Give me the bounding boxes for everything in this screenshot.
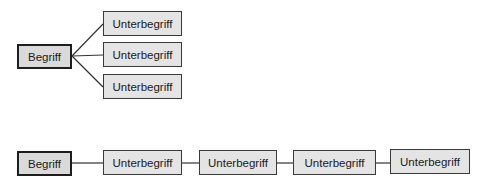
subconcept-label: Unterbegriff — [400, 156, 460, 168]
chain-subconcept-box: Unterbegriff — [103, 150, 182, 175]
subconcept-label: Unterbegriff — [113, 49, 173, 61]
subconcept-label: Unterbegriff — [113, 18, 173, 30]
subconcept-label: Unterbegriff — [113, 157, 173, 169]
root-concept-label: Begriff — [28, 51, 61, 63]
chain-subconcept-box: Unterbegriff — [293, 150, 376, 175]
subconcept-label: Unterbegriff — [305, 157, 365, 169]
root-concept-label: Begriff — [28, 158, 61, 170]
root-concept-box: Begriff — [17, 151, 72, 176]
subconcept-label: Unterbegriff — [208, 157, 268, 169]
chain-subconcept-box: Unterbegriff — [199, 150, 277, 175]
chain-subconcept-box: Unterbegriff — [390, 149, 470, 174]
root-concept-box: Begriff — [17, 44, 72, 69]
subconcept-box: Unterbegriff — [103, 11, 182, 36]
subconcept-label: Unterbegriff — [113, 81, 173, 93]
subconcept-box: Unterbegriff — [103, 42, 182, 67]
subconcept-box: Unterbegriff — [103, 74, 182, 99]
